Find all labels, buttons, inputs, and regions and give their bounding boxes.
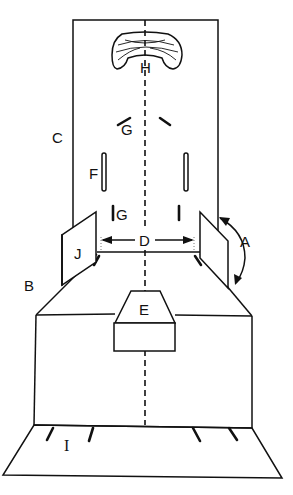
label-b: B	[24, 277, 34, 294]
label-h: H	[140, 59, 151, 76]
panel-j: J	[62, 212, 96, 285]
object-h: H	[112, 32, 182, 76]
block-e: E	[114, 291, 175, 351]
label-c: C	[52, 129, 63, 146]
markers-g-lower: G	[113, 206, 179, 223]
label-i: I	[64, 437, 69, 454]
label-e: E	[139, 301, 149, 318]
slits-f: F	[89, 153, 188, 191]
dimension-d: D	[101, 230, 194, 252]
panel-right	[200, 212, 228, 288]
label-d: D	[139, 232, 150, 249]
markers-g-upper: G	[118, 118, 170, 138]
label-f: F	[89, 165, 98, 182]
label-g-lower: G	[116, 206, 128, 223]
apparatus-diagram: H C G F G D B	[0, 0, 293, 495]
base-i: I	[3, 425, 282, 478]
label-g-upper: G	[121, 121, 133, 138]
label-a: A	[240, 233, 250, 250]
label-j: J	[74, 245, 82, 262]
